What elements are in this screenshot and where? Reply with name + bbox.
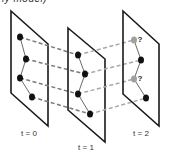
time-label-t2: t = 2 [133, 129, 149, 138]
skeleton-chain-t2 [134, 40, 146, 98]
known-point-marker [82, 70, 88, 77]
known-point-marker [75, 51, 81, 58]
correspondence-link [78, 40, 134, 55]
frame-plane-t2 [123, 11, 159, 126]
known-point-marker [87, 110, 93, 117]
known-point-marker [29, 93, 35, 100]
known-point-marker [17, 74, 23, 81]
question-mark-icon: ? [138, 35, 143, 44]
frame-plane-t0 [11, 11, 48, 126]
known-point-marker [17, 33, 23, 40]
unknown-point-marker [131, 75, 137, 82]
temporal-frames-diagram: ?? t = 0t = 1t = 2 [0, 0, 169, 156]
known-point-marker [23, 55, 29, 62]
known-point-marker [75, 90, 81, 97]
unknown-point-marker [131, 36, 137, 43]
skeleton-chain-t1 [78, 55, 90, 114]
known-point-marker [138, 56, 144, 63]
correspondence-link [85, 60, 141, 74]
question-mark-icon: ? [138, 74, 143, 83]
known-point-marker [143, 94, 149, 101]
frame-plane-t1 [68, 28, 105, 142]
correspondence-link [78, 79, 134, 94]
time-label-t0: t = 0 [21, 129, 37, 138]
time-label-t1: t = 1 [78, 143, 94, 152]
